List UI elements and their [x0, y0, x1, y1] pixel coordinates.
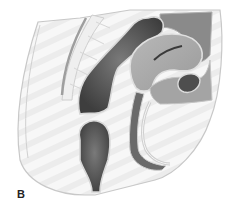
anatomy-svg: [0, 0, 234, 210]
panel-label: B: [17, 188, 25, 200]
pelvis-illustration: B: [0, 0, 234, 210]
